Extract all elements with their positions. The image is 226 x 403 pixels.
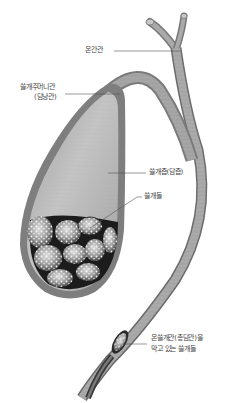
gallbladder-diagram: 온간관 쓸개주머니관 (담낭관) 쓸개즙(담즙) 쓸개돌 온쓸개관(총담관)을 … bbox=[0, 0, 226, 403]
hepatic-ducts bbox=[146, 14, 187, 51]
label-common-hepatic-duct: 온간관 bbox=[85, 46, 102, 55]
label-blocking-stone-line2: 막고 있는 쓸개돌 bbox=[151, 345, 196, 354]
blocking-stone bbox=[88, 328, 132, 398]
label-cystic-duct-line1: 쓸개주머니관 bbox=[20, 83, 55, 92]
label-bile: 쓸개즙(담즙) bbox=[149, 168, 183, 177]
label-cystic-duct-line2: (담낭관) bbox=[34, 93, 56, 102]
label-blocking-stone-line1: 온쓸개관(총담관)을 bbox=[151, 334, 202, 343]
label-gallstones: 쓸개돌 bbox=[144, 192, 161, 201]
